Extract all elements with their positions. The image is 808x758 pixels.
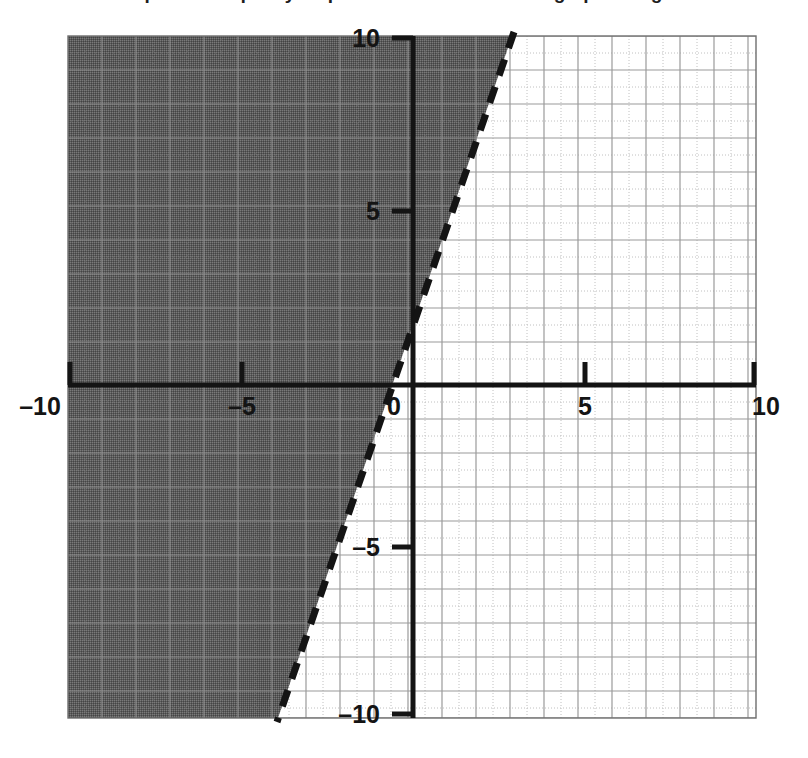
x-tick-label-10: 10 — [752, 392, 780, 420]
coordinate-plane[interactable]: –10 –5 0 5 10 10 5 –5 –10 — [0, 0, 808, 758]
y-tick-label-neg5: –5 — [352, 533, 380, 561]
x-tick-label-5: 5 — [578, 392, 592, 420]
origin-label: 0 — [387, 392, 401, 420]
y-tick-label-neg10: –10 — [338, 700, 380, 728]
y-tick-label-10: 10 — [352, 24, 380, 52]
x-tick-label-neg5: –5 — [228, 392, 256, 420]
y-tick-label-5: 5 — [366, 197, 380, 225]
inequality-graph-figure: –10 –5 0 5 10 10 5 –5 –10 — [0, 0, 808, 758]
x-tick-label-neg10: –10 — [19, 392, 61, 420]
